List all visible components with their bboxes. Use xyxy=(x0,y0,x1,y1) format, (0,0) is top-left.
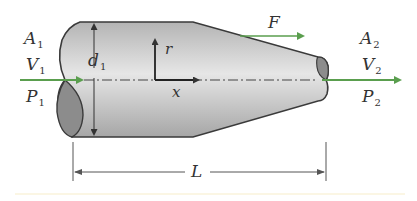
inlet-velocity-label: V1 xyxy=(26,54,46,76)
footer-strip xyxy=(15,193,405,195)
inlet-area-label: A1 xyxy=(22,28,44,50)
pipe-diagram: A1 V1 P1 d1 r x F A2 V2 P2 L xyxy=(0,0,417,201)
outlet-pressure-label: P2 xyxy=(361,86,381,108)
radial-axis-label: r xyxy=(165,40,173,58)
length-label: L xyxy=(190,161,202,181)
inlet-pressure-label: P1 xyxy=(25,86,45,108)
outlet-area-label: A2 xyxy=(358,28,380,50)
axial-axis-label: x xyxy=(172,83,181,101)
force-label: F xyxy=(267,12,281,32)
outlet-velocity-label: V2 xyxy=(362,54,382,76)
